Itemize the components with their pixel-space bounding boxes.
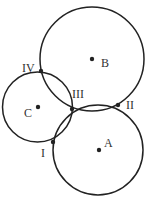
intersection-point-ii [116, 103, 120, 107]
intersection-label-iv: IV [22, 61, 35, 75]
center-label-a: A [104, 136, 113, 150]
intersection-label-iii: III [72, 87, 84, 101]
intersection-point-iv [39, 69, 43, 73]
intersection-point-i [51, 140, 55, 144]
intersection-point-iii [70, 107, 74, 111]
intersection-label-i: I [41, 146, 45, 160]
circles-diagram: ABCIIIIIIIV [0, 0, 161, 197]
center-point-c [36, 105, 40, 109]
intersection-label-ii: II [126, 98, 134, 112]
center-point-b [90, 57, 94, 61]
center-label-b: B [101, 56, 109, 70]
center-point-a [97, 148, 101, 152]
center-label-c: C [24, 106, 32, 120]
circle-group [3, 7, 145, 195]
